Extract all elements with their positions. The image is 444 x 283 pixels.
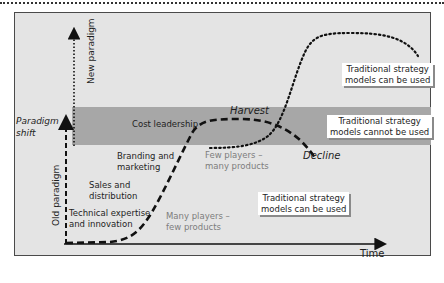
callout-bottom-can-be-used: Traditional strategy models can be used [258, 192, 349, 215]
note-few-players: Few players – many products [205, 150, 269, 171]
paradigm-shift-label: Paradigm shift [16, 115, 59, 139]
diagram-curves [0, 0, 444, 283]
decline-label: Decline [303, 150, 340, 162]
callout-top-can-be-used: Traditional strategy models can be used [342, 63, 433, 86]
stage-cost-leadership: Cost leadership [132, 119, 198, 130]
note-many-players: Many players – few products [166, 211, 230, 232]
callout-band-cannot-be-used: Traditional strategy models cannot be us… [327, 115, 432, 138]
x-axis-label-time: Time [360, 248, 384, 260]
harvest-label: Harvest [230, 105, 269, 117]
y-label-old-paradigm: Old paradigm [51, 165, 61, 226]
stage-sales: Sales and distribution [89, 180, 137, 201]
stage-technical: Technical expertise and innovation [69, 208, 150, 229]
stage-branding: Branding and marketing [117, 151, 174, 172]
y-label-new-paradigm: New paradigm [86, 18, 96, 84]
